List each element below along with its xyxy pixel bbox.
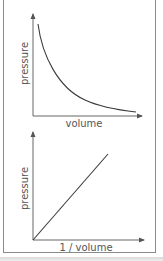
top-y-label: pressure (19, 34, 30, 94)
bottom-linear-line (33, 154, 108, 240)
top-inverse-curve (38, 24, 136, 112)
bottom-divider (0, 257, 163, 261)
bottom-y-label: pressure (19, 159, 30, 219)
top-x-label: volume (44, 118, 124, 129)
bottom-x-label: 1 / volume (46, 242, 126, 253)
bottom-chart-axes (33, 132, 144, 240)
